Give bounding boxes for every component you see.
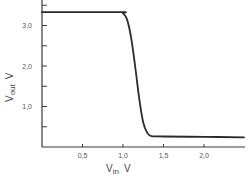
y-axis-label: VoutV — [4, 72, 17, 102]
x-tick-label: 0,5 — [78, 152, 88, 159]
x-tick-label: 1,0 — [118, 152, 128, 159]
x-axis-label: VinV — [106, 163, 131, 176]
y-tick-label: 2,0 — [22, 63, 32, 70]
x-tick-label: 1,5 — [159, 152, 169, 159]
transfer-characteristic-chart: 0,51,01,52,01,02,03,0 VinV VoutV — [0, 0, 250, 178]
y-tick-label: 1,0 — [22, 103, 32, 110]
tick-labels: 0,51,01,52,01,02,03,0 — [22, 22, 209, 159]
vout-curve — [42, 12, 244, 137]
y-tick-label: 3,0 — [22, 22, 32, 29]
axis-ticks — [42, 5, 204, 147]
x-tick-label: 2,0 — [199, 152, 209, 159]
